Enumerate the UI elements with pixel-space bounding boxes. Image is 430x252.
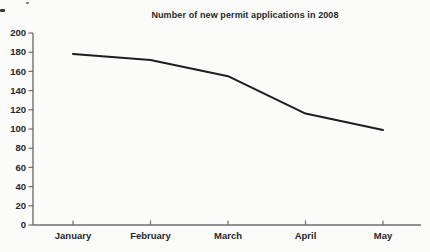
- y-tick-label: 40: [15, 181, 26, 192]
- y-tick-label: 180: [10, 46, 26, 57]
- line-chart-svg: Number of new permit applications in 200…: [0, 0, 430, 252]
- x-tick-label: March: [214, 230, 242, 241]
- y-tick-label: 0: [21, 219, 26, 230]
- x-tick-label: April: [295, 230, 317, 241]
- y-tick-label: 120: [10, 104, 26, 115]
- x-axis-ticks: JanuaryFebruaryMarchAprilMay: [55, 221, 393, 242]
- data-series: [73, 54, 383, 130]
- x-tick-label: January: [55, 230, 92, 241]
- y-tick-label: 80: [15, 142, 26, 153]
- permit-applications-line: [73, 54, 383, 130]
- scan-artifact-left: [0, 9, 5, 12]
- x-tick-label: May: [374, 230, 393, 241]
- y-axis-ticks: 020406080100120140160180200: [10, 27, 33, 230]
- y-tick-label: 100: [10, 123, 26, 134]
- scan-artifact-top: [26, 2, 29, 4]
- y-tick-label: 20: [15, 200, 26, 211]
- y-tick-label: 200: [10, 27, 26, 38]
- x-tick-label: February: [130, 230, 171, 241]
- permit-applications-chart: Number of new permit applications in 200…: [0, 0, 430, 252]
- chart-title: Number of new permit applications in 200…: [151, 10, 338, 20]
- y-tick-label: 140: [10, 85, 26, 96]
- y-tick-label: 60: [15, 162, 26, 173]
- y-tick-label: 160: [10, 66, 26, 77]
